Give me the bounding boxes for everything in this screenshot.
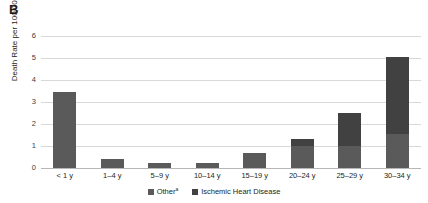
bar-group[interactable] (386, 57, 409, 168)
x-tick-label: 25–29 y (326, 172, 374, 180)
legend-label: Othera (157, 187, 179, 196)
x-axis-line (41, 168, 421, 169)
x-tick-label: 10–14 y (184, 172, 232, 180)
legend-label: Ischemic Heart Disease (201, 187, 280, 196)
bar-group[interactable] (196, 163, 219, 169)
bar-segment-other[interactable] (148, 163, 171, 169)
bar-segment-other[interactable] (53, 92, 76, 168)
legend-swatch-icon (192, 189, 198, 195)
chart-legend: OtheraIschemic Heart Disease (0, 187, 428, 196)
bar-group[interactable] (148, 163, 171, 169)
legend-item-other[interactable]: Othera (148, 187, 179, 196)
bar-group[interactable] (53, 92, 76, 168)
bar-group[interactable] (291, 139, 314, 168)
x-tick-label: 30–34 y (374, 172, 422, 180)
x-tick-label: < 1 y (41, 172, 89, 180)
x-tick-label: 5–9 y (136, 172, 184, 180)
legend-item-ischemic-heart-disease[interactable]: Ischemic Heart Disease (192, 187, 280, 196)
bar-segment-other[interactable] (291, 146, 314, 168)
y-tick-label-0: 0 (14, 164, 36, 172)
bar-group[interactable] (243, 153, 266, 168)
x-tick-label: 15–19 y (231, 172, 279, 180)
bar-segment-other[interactable] (101, 159, 124, 168)
x-tick-labels: < 1 y1–4 y5–9 y10–14 y15–19 y20–24 y25–2… (41, 172, 421, 186)
bar-group[interactable] (338, 113, 361, 168)
bar-group[interactable] (101, 159, 124, 168)
bar-series-container (41, 36, 421, 168)
bar-segment-other[interactable] (196, 163, 219, 169)
y-tick-label-5: 5 (14, 54, 36, 62)
x-tick-label: 20–24 y (279, 172, 327, 180)
y-tick-label-3: 3 (14, 98, 36, 106)
bar-segment-other[interactable] (386, 134, 409, 168)
bar-segment-other[interactable] (243, 153, 266, 168)
bar-segment-ischemic-heart-disease[interactable] (386, 57, 409, 134)
legend-footnote-marker: a (175, 186, 178, 192)
y-tick-label-6: 6 (14, 32, 36, 40)
bar-segment-ischemic-heart-disease[interactable] (338, 113, 361, 146)
bar-segment-other[interactable] (338, 146, 361, 168)
legend-swatch-icon (148, 189, 154, 195)
y-tick-label-1: 1 (14, 142, 36, 150)
figure-panel-b: B Death Rate per 100,000 0123456 < 1 y1–… (0, 0, 428, 203)
y-tick-label-2: 2 (14, 120, 36, 128)
bar-segment-ischemic-heart-disease[interactable] (291, 139, 314, 146)
y-tick-label-4: 4 (14, 76, 36, 84)
x-tick-label: 1–4 y (89, 172, 137, 180)
